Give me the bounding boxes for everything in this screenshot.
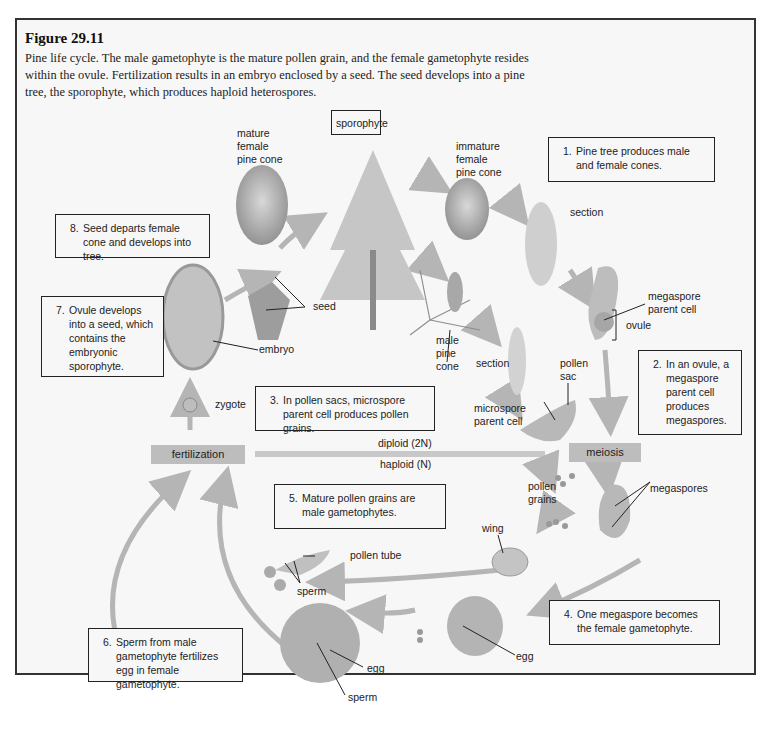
step-7-box: 7. Ovule develops into a seed, which con… [41, 296, 164, 377]
step-4-box: 4. One megaspore becomes the female game… [549, 600, 720, 645]
step-2-text: In an ovule, a megaspore parent cell pro… [653, 357, 733, 427]
label-zygote: zygote [215, 398, 246, 411]
step-1-number: 1. [563, 144, 572, 158]
step-5-box: 5. Mature pollen grains are male gametop… [274, 484, 446, 529]
step-4-number: 4. [564, 607, 573, 621]
diploid-label: diploid (2N) [378, 437, 432, 450]
winged-seeds [248, 282, 290, 340]
label-mature-female-cone: mature female pine cone [237, 127, 287, 166]
step-4-text: One megaspore becomes the female gametop… [564, 607, 711, 635]
haploid-label: haploid (N) [380, 458, 431, 471]
immature-female-cone [445, 178, 489, 240]
label-section-female: section [570, 206, 603, 219]
label-pollen-grains: pollen grains [528, 480, 563, 506]
phase-line [255, 451, 545, 457]
step-7-number: 7. [56, 303, 65, 317]
label-male-cone: male pine cone [436, 334, 466, 373]
figure-title: Figure 29.11 [25, 30, 104, 47]
zygote [183, 398, 197, 412]
step-8-box: 8. Seed departs female cone and develops… [55, 214, 210, 258]
step-7-text: Ovule develops into a seed, which contai… [56, 303, 155, 373]
label-pollen-tube: pollen tube [350, 549, 401, 562]
figure-caption: Pine life cycle. The male gametophyte is… [25, 50, 545, 101]
step-8-text: Seed departs female cone and develops in… [70, 221, 201, 263]
step-6-number: 6. [103, 635, 112, 649]
step-1-text: Pine tree produces male and female cones… [563, 144, 706, 172]
step-2-box: 2. In an ovule, a megaspore parent cell … [638, 350, 742, 435]
sporophyte-label: sporophyte [336, 117, 388, 129]
step-5-text: Mature pollen grains are male gametophyt… [289, 491, 437, 519]
step-3-number: 3. [270, 393, 279, 407]
step-3-text: In pollen sacs, microspore parent cell p… [270, 393, 426, 435]
label-ovule: ovule [626, 319, 651, 332]
male-pine-cone [410, 270, 480, 335]
fertilization-bar: fertilization [151, 445, 245, 464]
step-6-text: Sperm from male gametophyte fertilizes e… [103, 635, 234, 691]
meiosis-bar: meiosis [569, 443, 641, 462]
step-8-number: 8. [70, 221, 79, 235]
step-6-box: 6. Sperm from male gametophyte fertilize… [88, 628, 243, 682]
male-cone-section [508, 327, 526, 395]
label-immature-female-cone: immature female pine cone [456, 140, 506, 179]
winged-pollen-grain [492, 548, 528, 576]
pollen-tube-illustration [275, 550, 330, 575]
sporophyte-label-box: sporophyte [331, 110, 381, 135]
label-megaspore-parent-cell: megaspore parent cell [648, 290, 708, 316]
label-egg-right: egg [516, 650, 534, 663]
label-pollen-sac: pollen sac [560, 357, 590, 383]
step-3-box: 3. In pollen sacs, microspore parent cel… [255, 386, 435, 431]
label-sperm-bottom: sperm [348, 691, 377, 704]
label-sperm-tube: sperm [297, 585, 326, 598]
label-wing: wing [482, 522, 504, 535]
mature-female-cone [236, 165, 288, 245]
step-2-number: 2. [653, 357, 662, 371]
label-embryo: embryo [259, 343, 294, 356]
label-egg-left: egg [367, 662, 385, 675]
seed-ovule [163, 265, 223, 369]
label-seed: seed [313, 300, 336, 313]
step-1-box: 1. Pine tree produces male and female co… [548, 137, 715, 182]
label-megaspores: megaspores [650, 482, 708, 495]
female-gametophyte [447, 596, 503, 656]
label-section-male: section [476, 357, 509, 370]
fertilization-ovule [280, 603, 360, 683]
female-cone-section [525, 202, 557, 286]
step-5-number: 5. [289, 491, 298, 505]
label-microspore-parent-cell: microspore parent cell [474, 402, 534, 428]
